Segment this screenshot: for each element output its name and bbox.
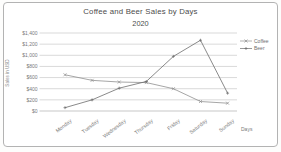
y-tick-label: $1,200 — [22, 41, 38, 47]
x-tick-label: Saturday — [188, 117, 208, 135]
x-tick-label: Thursday — [133, 117, 154, 135]
y-tick-label: $200 — [26, 97, 37, 103]
legend-label-beer: Beer — [254, 45, 265, 51]
y-tick-label: $600 — [26, 74, 37, 80]
y-tick-label: $400 — [26, 86, 37, 92]
y-tick-label: $1,400 — [22, 30, 38, 36]
y-tick-label: $0 — [32, 108, 38, 114]
series-line-beer — [65, 40, 228, 107]
y-tick-label: $800 — [26, 63, 37, 69]
x-tick-label: Sunday — [218, 117, 236, 133]
legend-label-coffee: Coffee — [254, 38, 269, 44]
line-chart: $0$200$400$600$800$1,000$1,200$1,400Sale… — [0, 0, 281, 152]
x-tick-label: Friday — [166, 117, 181, 131]
x-tick-label: Monday — [54, 117, 73, 133]
y-axis-title: Sales in USD — [5, 59, 10, 87]
y-tick-label: $1,000 — [22, 52, 38, 58]
x-tick-label: Tuesday — [80, 117, 100, 134]
x-axis-title: Days — [241, 126, 253, 132]
x-tick-label: Wednesday — [102, 117, 128, 139]
